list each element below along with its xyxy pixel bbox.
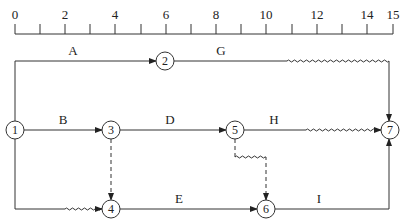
activity-1-4-arrow (15, 139, 65, 209)
activity-label-H: H (269, 112, 278, 127)
tick-label: 12 (311, 7, 324, 22)
tick-label: 4 (112, 7, 119, 22)
dummy-5-6-free-float-wave (235, 156, 265, 158)
tick-label: 10 (260, 7, 273, 22)
node-label-4: 4 (108, 202, 114, 216)
activity-label-A: A (68, 43, 78, 58)
activity-G-free-float-wave (287, 60, 389, 62)
node-label-3: 3 (108, 123, 114, 137)
node-label-2: 2 (162, 54, 168, 68)
tick-label: 15 (387, 7, 400, 22)
tick-label: 2 (62, 7, 69, 22)
activity-label-I: I (317, 191, 321, 206)
activity-H-free-float-wave (306, 129, 378, 131)
activity-I-arrow (275, 139, 389, 209)
activity-label-G: G (216, 43, 225, 58)
node-label-1: 1 (12, 123, 18, 137)
node-label-6: 6 (263, 202, 269, 216)
time-scaled-network-diagram: 0 2 4 6 8 10 12 14 15 (0, 0, 405, 224)
node-label-7: 7 (387, 123, 393, 137)
time-scale-labels: 0 2 4 6 8 10 12 14 15 (12, 7, 400, 22)
activity-label-B: B (59, 112, 68, 127)
tick-label: 6 (163, 7, 170, 22)
tick-label: 0 (12, 7, 19, 22)
activity-A-arrow (15, 61, 156, 121)
node-label-5: 5 (232, 123, 238, 137)
activity-label-E: E (175, 191, 183, 206)
time-scale (15, 24, 393, 34)
tick-label: 8 (213, 7, 220, 22)
tick-label: 14 (361, 7, 375, 22)
activity-label-D: D (165, 112, 174, 127)
